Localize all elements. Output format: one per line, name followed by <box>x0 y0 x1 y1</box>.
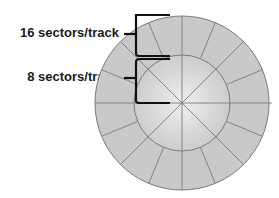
disk-diagram <box>0 0 279 198</box>
